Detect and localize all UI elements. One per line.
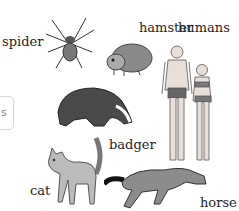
label-spider: spider: [2, 35, 43, 48]
badger-image: [54, 82, 136, 132]
partial-option-card[interactable]: s: [0, 96, 14, 130]
spider-image: [42, 12, 98, 70]
label-humans: humans: [178, 21, 230, 34]
humans-image: [160, 44, 220, 168]
label-badger: badger: [109, 138, 156, 151]
label-horse: horse: [200, 196, 237, 209]
cat-image: [40, 136, 104, 208]
partial-option-text: s: [1, 106, 7, 119]
hamster-image: [104, 40, 154, 78]
